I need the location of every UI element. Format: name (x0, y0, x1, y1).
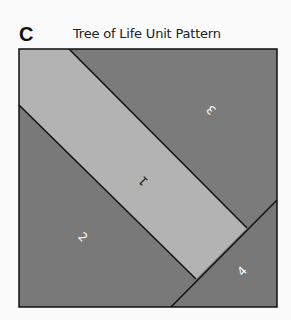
unit-pattern-diagram: 1 2 3 4 (0, 0, 291, 320)
